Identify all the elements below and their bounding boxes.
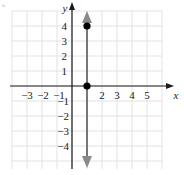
y-axis-arrowhead — [69, 2, 75, 10]
y-tick-label: −3 — [57, 125, 69, 137]
y-tick-label: 1 — [62, 65, 68, 77]
y-tick-label: −4 — [57, 140, 69, 152]
line-arrowhead-up — [82, 11, 92, 23]
line-arrowhead-down — [82, 156, 92, 168]
x-tick-label: 3 — [114, 89, 120, 101]
x-tick-labels: −3 −2 −1 2 3 4 5 — [21, 89, 150, 101]
point-marker — [83, 82, 90, 89]
x-tick-label: −2 — [37, 89, 49, 101]
corner-mark: a. — [2, 2, 6, 8]
x-axis-label: x — [173, 89, 179, 101]
plot-canvas: −3 −2 −1 2 3 4 5 4 3 2 1 −1 −2 −3 −4 y x… — [0, 0, 184, 175]
y-tick-label: −1 — [57, 95, 69, 107]
x-tick-label: 4 — [129, 89, 135, 101]
y-axis-label: y — [62, 2, 68, 14]
x-tick-label: 2 — [99, 89, 105, 101]
y-tick-label: 3 — [62, 35, 68, 47]
coordinate-graph-figure: −3 −2 −1 2 3 4 5 4 3 2 1 −1 −2 −3 −4 y x… — [0, 0, 184, 175]
y-tick-label: 4 — [62, 20, 68, 32]
x-tick-label: −3 — [21, 89, 33, 101]
x-tick-label: 5 — [144, 89, 150, 101]
y-tick-label: 2 — [62, 50, 68, 62]
point-marker — [83, 22, 90, 29]
y-tick-label: −2 — [57, 110, 69, 122]
axes — [10, 2, 174, 169]
